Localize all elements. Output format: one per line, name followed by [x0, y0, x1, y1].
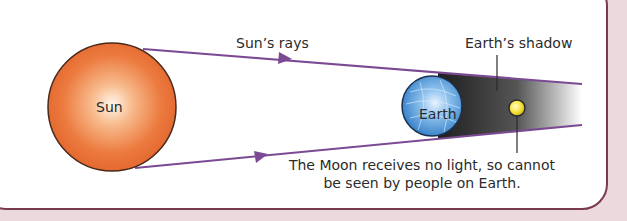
- earth-label: Earth: [419, 106, 457, 122]
- moon-icon: [509, 100, 525, 116]
- sun-rays-label: Sun’s rays: [236, 35, 309, 51]
- moon-caption: The Moon receives no light, so cannot be…: [272, 156, 572, 192]
- earth-shadow-label: Earth’s shadow: [465, 35, 572, 51]
- arrow-head-icon: [254, 151, 268, 163]
- sun-label: Sun: [96, 99, 123, 115]
- moon-caption-line1: The Moon receives no light, so cannot: [272, 156, 572, 174]
- moon-caption-line2: be seen by people on Earth.: [272, 174, 572, 192]
- diagram-stage: Sun Sun’s rays Earth Earth’s shadow The …: [0, 0, 627, 221]
- arrow-head-icon: [278, 52, 292, 64]
